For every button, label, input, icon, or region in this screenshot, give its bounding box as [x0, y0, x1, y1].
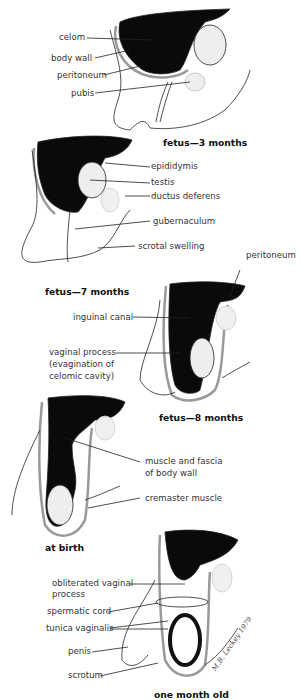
label-muscle-and-fascia: muscle and fascia [145, 456, 222, 467]
caption-fetus-8-months: fetus—8 months [159, 412, 243, 423]
label-gubernaculum: gubernaculum [153, 216, 215, 227]
label-ductus-deferens: ductus deferens [151, 191, 220, 202]
label-celomic-cavity: celomic cavity) [49, 371, 114, 382]
label-testis: testis [151, 177, 174, 188]
panel-fetus-8-months-drawing [140, 282, 250, 401]
label-penis: penis [68, 646, 91, 657]
caption-fetus-3-months: fetus—3 months [163, 137, 247, 148]
label-tunica-vaginalis: tunica vaginalis [46, 623, 114, 634]
label-spermatic-cord: spermatic cord [47, 606, 111, 617]
caption-fetus-7-months: fetus—7 months [45, 286, 129, 297]
label-inguinal-canal: inguinal canal [73, 312, 133, 323]
panel-at-birth-drawing [12, 396, 125, 536]
label-cremaster-muscle: cremaster muscle [145, 493, 222, 504]
diagram-artwork [0, 0, 302, 700]
label-process: process [52, 589, 85, 600]
label-of-body-wall: of body wall [145, 468, 197, 479]
caption-one-month-old: one month old [154, 689, 229, 700]
label-body-wall: body wall [51, 53, 92, 64]
label-epididymis: epididymis [151, 161, 198, 172]
label-celom: celom [59, 32, 85, 43]
label-peritoneum: peritoneum [57, 70, 107, 81]
caption-at-birth: at birth [45, 542, 84, 553]
label-scrotum: scrotum [68, 670, 103, 681]
label-peritoneum-2: peritoneum [246, 250, 296, 261]
label-evagination-of: (evagination of [49, 359, 114, 370]
label-vaginal-process: vaginal process [49, 347, 116, 358]
panel-fetus-3-months-drawing [110, 9, 250, 130]
label-obliterated-vaginal: obliterated vaginal [52, 578, 133, 589]
panel-fetus-7-months-drawing [22, 136, 132, 262]
label-scrotal-swelling: scrotal swelling [138, 241, 204, 252]
label-pubis: pubis [71, 88, 94, 99]
